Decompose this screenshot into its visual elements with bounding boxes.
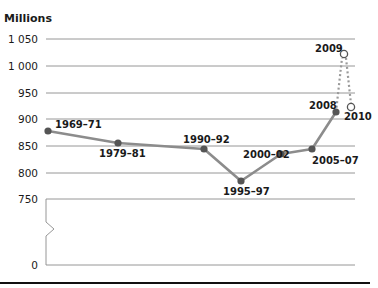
label-2009: 2009 — [315, 43, 343, 54]
axis-break-icon — [46, 199, 54, 265]
label-1990-92: 1990–92 — [183, 134, 230, 145]
point-2005-07 — [308, 145, 315, 152]
point-1990-92 — [200, 145, 207, 152]
y-tick-750: 750 — [18, 193, 38, 205]
label-1995-97: 1995–97 — [223, 186, 270, 197]
point-1979-81 — [114, 139, 121, 146]
label-2010: 2010 — [344, 111, 372, 122]
label-2000-02: 2000–02 — [243, 149, 290, 160]
label-2005-07: 2005–07 — [312, 155, 359, 166]
y-tick-850: 850 — [18, 140, 38, 152]
y-axis-unit-label: Millions — [4, 12, 52, 25]
y-tick-0: 0 — [31, 259, 38, 271]
y-tick-1050: 1 050 — [8, 33, 38, 45]
label-1979-81: 1979–81 — [99, 148, 146, 159]
y-tick-900: 900 — [18, 113, 38, 125]
point-1995-97 — [237, 177, 244, 184]
gridlines — [46, 39, 355, 265]
y-tick-1000: 1 000 — [8, 60, 38, 72]
label-1969-71: 1969–71 — [55, 119, 102, 130]
point-1969-71 — [44, 127, 51, 134]
label-2008: 2008 — [309, 100, 337, 111]
y-tick-800: 800 — [18, 167, 38, 179]
y-tick-950: 950 — [18, 87, 38, 99]
point-2010 — [347, 103, 354, 110]
chart: Millions 1 050 1 000 950 900 850 800 750… — [0, 0, 378, 288]
